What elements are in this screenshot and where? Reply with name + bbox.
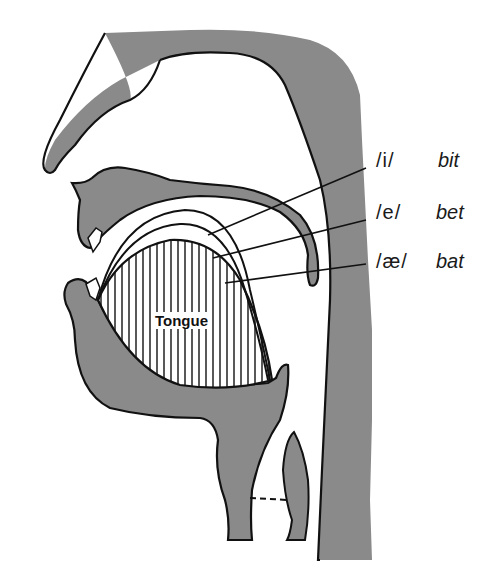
vocal-tract-diagram: Tongue /i/ bit /e/ bet /æ/ bat (0, 0, 490, 566)
vowel-word-bit: bit (438, 150, 459, 170)
vocal-tract-illustration (0, 0, 490, 566)
vowel-ipa-i: /i/ (376, 150, 395, 170)
vowel-word-bat: bat (436, 251, 464, 271)
vowel-word-bet: bet (436, 202, 464, 222)
larynx-tissue (283, 432, 309, 540)
vowel-ipa-e: /e/ (376, 202, 401, 222)
vocal-folds-dashed (250, 498, 288, 500)
tongue-label: Tongue (153, 312, 210, 329)
vowel-ipa-ae: /æ/ (376, 251, 408, 271)
